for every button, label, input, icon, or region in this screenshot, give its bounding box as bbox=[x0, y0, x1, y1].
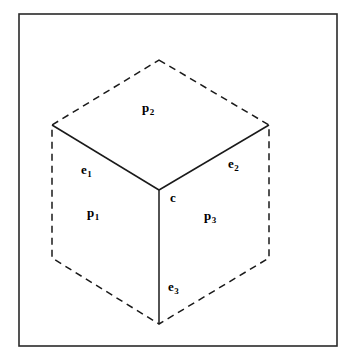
label-face-p1-subscript: 1 bbox=[95, 212, 100, 222]
label-edge-e1-subscript: 1 bbox=[87, 169, 92, 179]
label-face-p2: p2 bbox=[142, 99, 154, 117]
label-edge-e3-subscript: 3 bbox=[174, 286, 179, 296]
label-face-p2-base: p bbox=[142, 100, 149, 115]
label-face-p1: p1 bbox=[87, 204, 99, 222]
label-face-p3: p3 bbox=[204, 207, 216, 225]
label-face-p3-base: p bbox=[204, 208, 211, 223]
label-edge-e1: e1 bbox=[81, 161, 92, 179]
label-edge-e2-subscript: 2 bbox=[234, 163, 239, 173]
label-edge-e3-base: e bbox=[168, 279, 174, 294]
label-vertex-c: c bbox=[170, 189, 176, 207]
caption-strip bbox=[0, 350, 353, 361]
figure-container: p2 e1 e2 c p1 p3 e3 bbox=[0, 0, 353, 361]
label-face-p3-subscript: 3 bbox=[212, 215, 217, 225]
label-edge-e3: e3 bbox=[168, 278, 179, 296]
label-vertex-c-base: c bbox=[170, 190, 176, 205]
label-face-p1-base: p bbox=[87, 205, 94, 220]
label-edge-e2: e2 bbox=[228, 155, 239, 173]
cube-diagram-canvas bbox=[0, 0, 353, 361]
label-face-p2-subscript: 2 bbox=[150, 107, 155, 117]
label-edge-e1-base: e bbox=[81, 162, 87, 177]
label-edge-e2-base: e bbox=[228, 156, 234, 171]
